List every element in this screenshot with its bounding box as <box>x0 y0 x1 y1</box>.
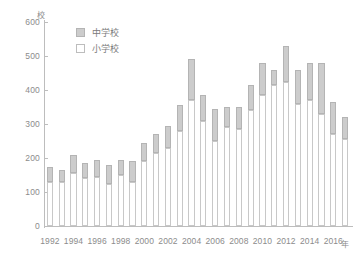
bar-column[interactable] <box>177 22 183 226</box>
bar-column[interactable] <box>259 22 265 226</box>
bar-column[interactable] <box>248 22 254 226</box>
legend-item-primary: 小学校 <box>76 42 119 55</box>
bar-segment-primary <box>129 182 135 226</box>
bar-segment-secondary <box>283 46 289 82</box>
y-axis-tick-label: 500 <box>25 51 40 61</box>
bar-column[interactable] <box>307 22 313 226</box>
y-axis-tick-label: 300 <box>25 119 40 129</box>
bar-segment-secondary <box>188 59 194 100</box>
x-axis-tick-label: 2004 <box>182 236 201 246</box>
bar-segment-secondary <box>342 117 348 139</box>
bar-column[interactable] <box>165 22 171 226</box>
bar-column[interactable] <box>224 22 230 226</box>
bar-segment-primary <box>271 85 277 226</box>
bar-segment-primary <box>283 82 289 227</box>
legend-item-secondary: 中学校 <box>76 26 119 39</box>
x-axis-tick-label: 2006 <box>206 236 225 246</box>
bar-segment-primary <box>259 95 265 226</box>
bar-column[interactable] <box>283 22 289 226</box>
bar-column[interactable] <box>318 22 324 226</box>
bar-segment-secondary <box>236 107 242 129</box>
bar-column[interactable] <box>153 22 159 226</box>
bar-column[interactable] <box>141 22 147 226</box>
y-axis-tick-label: 200 <box>25 153 40 163</box>
bar-column[interactable] <box>188 22 194 226</box>
bar-column[interactable] <box>342 22 348 226</box>
bar-segment-secondary <box>200 95 206 121</box>
x-axis-tick-label: 1994 <box>64 236 83 246</box>
bar-segment-primary <box>59 182 65 226</box>
bar-segment-secondary <box>165 126 171 148</box>
bar-segment-secondary <box>259 63 265 95</box>
bar-segment-secondary <box>224 107 230 127</box>
x-axis-tick-label: 1998 <box>111 236 130 246</box>
bar-segment-primary <box>212 141 218 226</box>
bar-segment-secondary <box>94 160 100 177</box>
bar-segment-primary <box>248 110 254 226</box>
x-axis-tick-label: 2000 <box>135 236 154 246</box>
bar-column[interactable] <box>236 22 242 226</box>
bar-segment-primary <box>307 100 313 226</box>
legend-swatch-secondary-icon <box>76 28 85 37</box>
bar-segment-primary <box>177 131 183 226</box>
bar-segment-secondary <box>295 70 301 104</box>
x-axis-tick-label: 2010 <box>253 236 272 246</box>
x-axis-tick-label: 1996 <box>87 236 106 246</box>
bar-segment-primary <box>236 129 242 226</box>
bar-segment-secondary <box>47 167 53 182</box>
bar-segment-primary <box>141 161 147 226</box>
bar-segment-secondary <box>177 105 183 131</box>
bar-segment-primary <box>318 114 324 226</box>
x-axis-tick-label: 2002 <box>158 236 177 246</box>
y-axis-tick <box>44 226 48 227</box>
bar-segment-primary <box>200 121 206 226</box>
bar-column[interactable] <box>212 22 218 226</box>
bar-segment-primary <box>330 134 336 226</box>
x-axis-line <box>44 226 353 227</box>
bar-segment-secondary <box>106 165 112 184</box>
chart-container: 校 年 0100200300400500600 1992199419961998… <box>0 0 361 271</box>
legend-label-primary: 小学校 <box>92 42 119 55</box>
bar-segment-secondary <box>153 134 159 153</box>
chart-legend: 中学校 小学校 <box>76 26 119 58</box>
bar-column[interactable] <box>271 22 277 226</box>
bar-column[interactable] <box>200 22 206 226</box>
bar-segment-secondary <box>212 109 218 141</box>
y-axis-tick-label: 100 <box>25 187 40 197</box>
bar-segment-secondary <box>59 170 65 182</box>
bar-segment-primary <box>295 104 301 226</box>
bar-segment-primary <box>342 139 348 226</box>
bar-segment-primary <box>70 173 76 226</box>
bar-segment-secondary <box>70 155 76 174</box>
bar-segment-primary <box>47 182 53 226</box>
bar-segment-secondary <box>82 163 88 178</box>
bar-column[interactable] <box>295 22 301 226</box>
bar-segment-primary <box>106 184 112 227</box>
legend-label-secondary: 中学校 <box>92 26 119 39</box>
bar-column[interactable] <box>59 22 65 226</box>
x-axis-tick-label: 2008 <box>229 236 248 246</box>
x-axis-tick-label: 2014 <box>300 236 319 246</box>
bar-segment-primary <box>153 153 159 226</box>
y-axis-tick-label: 0 <box>35 221 40 231</box>
bar-column[interactable] <box>330 22 336 226</box>
bar-segment-secondary <box>248 85 254 111</box>
bar-segment-primary <box>94 177 100 226</box>
bar-segment-secondary <box>318 63 324 114</box>
bar-column[interactable] <box>129 22 135 226</box>
x-axis-tick-label: 2012 <box>276 236 295 246</box>
bar-segment-primary <box>188 100 194 226</box>
bar-segment-secondary <box>141 143 147 162</box>
bar-segment-primary <box>224 127 230 226</box>
x-axis-tick-label: 2016 <box>324 236 343 246</box>
bar-segment-primary <box>82 178 88 226</box>
y-axis-tick-label: 400 <box>25 85 40 95</box>
bar-segment-secondary <box>129 161 135 181</box>
bar-column[interactable] <box>47 22 53 226</box>
bar-segment-secondary <box>118 160 124 175</box>
bar-segment-secondary <box>307 63 313 100</box>
x-axis-tick-label: 1992 <box>40 236 59 246</box>
bar-segment-secondary <box>330 102 336 134</box>
bar-segment-primary <box>118 175 124 226</box>
bar-segment-secondary <box>271 70 277 85</box>
